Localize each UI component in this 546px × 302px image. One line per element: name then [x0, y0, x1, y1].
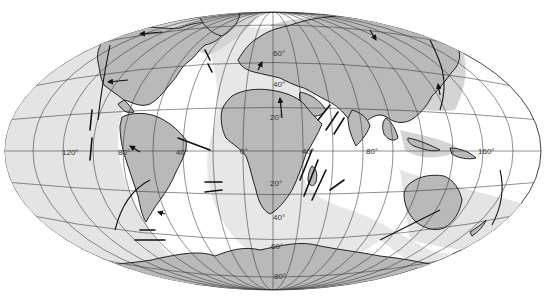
lon-label-160e: 160° — [478, 147, 495, 156]
lat-label-80s: 80° — [274, 272, 286, 281]
lat-label-60s: 60° — [271, 242, 283, 251]
lat-label-40n: 40° — [273, 80, 285, 89]
lon-label-40w: 40° — [176, 148, 188, 157]
lon-label-80e: 80° — [366, 147, 378, 156]
lat-label-40s: 40° — [273, 213, 285, 222]
lon-label-40e: 40° — [302, 147, 314, 156]
world-map: 120° 80° 40° 0° 40° 80° 160° 60° 40° 20°… — [0, 0, 546, 302]
lon-label-0: 0° — [240, 147, 248, 156]
lon-label-80w: 80° — [118, 148, 130, 157]
lat-label-60n: 60° — [273, 49, 285, 58]
lat-label-20n: 20° — [270, 113, 282, 122]
lon-label-120w: 120° — [62, 148, 79, 157]
lat-label-20s: 20° — [270, 179, 282, 188]
